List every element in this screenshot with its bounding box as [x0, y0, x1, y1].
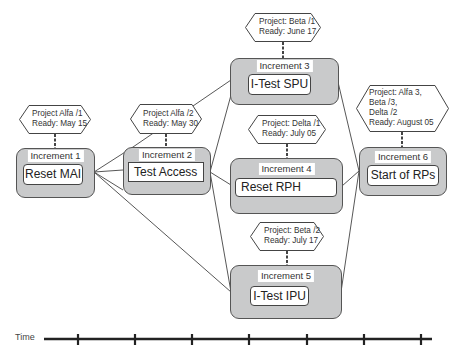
milestone-inc1: Project Alfa /1 Ready: May 15	[19, 105, 91, 134]
milestone-ready: Ready: June 17	[259, 27, 316, 37]
milestone-project: Project: Beta /1	[259, 17, 316, 27]
milestone-inc6: Project: Alfa 3, Beta /3, Delta /2 Ready…	[356, 85, 449, 132]
timeline-label: Time	[15, 332, 35, 342]
milestone-ready: Ready: May 30	[143, 119, 198, 129]
increment-title: Increment 5	[258, 270, 314, 282]
task-label: Reset RPH	[235, 178, 337, 197]
task-label: I-Test IPU	[250, 286, 309, 306]
milestone-project: Project: Beta /2	[264, 226, 320, 236]
increment-2[interactable]: Increment 2 Test Access	[123, 147, 211, 195]
task-label: Test Access	[128, 162, 204, 182]
milestone-project: Delta /2	[369, 108, 434, 118]
task-label: Reset MAI	[23, 164, 83, 185]
milestone-ready: Ready: July 17	[264, 236, 320, 246]
milestone-project: Project: Delta /1	[262, 119, 320, 129]
milestone-project: Project Alfa /1	[32, 109, 87, 119]
increment-title: Increment 2	[139, 149, 195, 161]
increment-5[interactable]: Increment 5 I-Test IPU	[230, 265, 342, 319]
task-label: Start of RPs	[367, 165, 439, 186]
increment-title: Increment 4	[258, 163, 314, 175]
milestone-ready: Ready: May 15	[32, 119, 87, 129]
increment-title: Increment 6	[375, 151, 431, 163]
increment-1[interactable]: Increment 1 Reset MAI	[16, 148, 95, 198]
increment-title: Increment 3	[256, 60, 312, 72]
task-label: I-Test SPU	[248, 74, 311, 95]
increment-3[interactable]: Increment 3 I-Test SPU	[230, 58, 339, 105]
milestone-ready: Ready: August 05	[369, 118, 434, 128]
milestone-project: Project Alfa /2	[143, 109, 198, 119]
increment-title: Increment 1	[27, 150, 83, 162]
milestone-ready: Ready: July 05	[262, 129, 320, 139]
milestone-inc4: Project: Delta /1 Ready: July 05	[248, 115, 326, 144]
increment-4[interactable]: Increment 4 Reset RPH	[230, 158, 343, 214]
timeline-axis	[44, 334, 432, 345]
milestone-inc2: Project Alfa /2 Ready: May 30	[130, 104, 202, 134]
milestone-inc3: Project: Beta /1 Ready: June 17	[245, 13, 321, 42]
increment-6[interactable]: Increment 6 Start of RPs	[359, 147, 447, 196]
milestone-inc5: Project: Beta /2 Ready: July 17	[250, 222, 324, 251]
milestone-project: Project: Alfa 3,	[369, 88, 434, 98]
milestone-project: Beta /3,	[369, 98, 434, 108]
